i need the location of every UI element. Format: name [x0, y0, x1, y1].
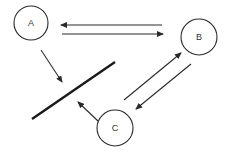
- node-c: C: [97, 110, 133, 146]
- barrier-line: [32, 62, 115, 119]
- node-a: A: [14, 6, 48, 40]
- node-b: B: [181, 19, 217, 55]
- node-a-label: A: [28, 18, 34, 28]
- diagram-canvas: A B C: [0, 0, 230, 153]
- arrow-c-to-barrier: [78, 102, 98, 121]
- arrow-c-to-b: [124, 53, 181, 100]
- arrow-a-to-barrier: [41, 50, 62, 82]
- node-c-label: C: [112, 123, 119, 133]
- arrow-b-to-c: [136, 64, 191, 109]
- node-b-label: B: [196, 32, 202, 42]
